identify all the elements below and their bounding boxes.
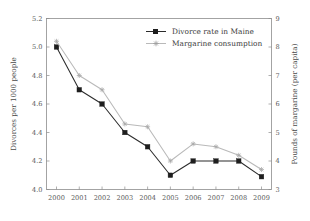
right-axis-title: Pounds of margarine (per capita) [290, 43, 299, 164]
right-tick-label: 5 [276, 129, 280, 137]
x-tick-label: 2006 [185, 194, 202, 202]
right-tick-label: 8 [276, 43, 280, 51]
line-chart: 4.04.24.44.64.85.05.2 3456789 2000200120… [0, 0, 310, 221]
data-point-marker [100, 87, 105, 92]
x-tick-label: 2001 [71, 194, 88, 202]
x-tick-label: 2009 [253, 194, 270, 202]
data-point-marker [145, 144, 150, 149]
left-tick-label: 4.0 [32, 186, 43, 194]
right-tick-label: 4 [276, 157, 280, 165]
x-tick-label: 2000 [48, 194, 65, 202]
right-tick-label: 6 [276, 100, 280, 108]
data-point-marker [145, 124, 150, 129]
data-point-marker [259, 167, 264, 172]
left-tick-label: 5.0 [32, 43, 43, 51]
x-tick-label: 2005 [162, 194, 179, 202]
legend-label-divorce-rate: Divorce rate in Maine [172, 27, 254, 36]
data-point-marker [213, 144, 218, 149]
right-tick-label: 7 [276, 72, 280, 80]
legend-label-margarine: Margarine consumption [172, 39, 262, 48]
data-point-marker [259, 174, 264, 179]
data-point-marker [191, 141, 196, 146]
left-tick-label: 4.8 [32, 72, 43, 80]
x-tick-label: 2002 [94, 194, 111, 202]
legend-marker-square-icon [153, 29, 158, 34]
left-tick-label: 5.2 [32, 15, 43, 23]
data-point-marker [236, 153, 241, 158]
data-point-marker [123, 130, 128, 135]
data-point-marker [100, 102, 105, 107]
data-point-marker [54, 45, 59, 50]
right-tick-label: 3 [276, 186, 280, 194]
right-tick-label: 9 [276, 15, 280, 23]
left-axis-title: Divorces per 1000 people [9, 57, 18, 151]
data-point-marker [214, 159, 219, 164]
data-point-marker [191, 159, 196, 164]
x-tick-label: 2007 [208, 194, 225, 202]
legend-marker-star-icon [153, 41, 159, 47]
left-tick-label: 4.4 [32, 129, 43, 137]
x-tick-label: 2004 [139, 194, 156, 202]
data-point-marker [77, 87, 82, 92]
data-point-marker [168, 159, 173, 164]
left-tick-label: 4.6 [32, 100, 43, 108]
x-tick-label: 2003 [116, 194, 133, 202]
data-point-marker [236, 159, 241, 164]
chart-container: 4.04.24.44.64.85.05.2 3456789 2000200120… [0, 0, 310, 221]
data-point-marker [77, 73, 82, 78]
data-point-marker [54, 39, 59, 44]
left-tick-label: 4.2 [32, 157, 43, 165]
data-point-marker [168, 173, 173, 178]
x-tick-label: 2008 [230, 194, 247, 202]
data-point-marker [122, 121, 127, 126]
